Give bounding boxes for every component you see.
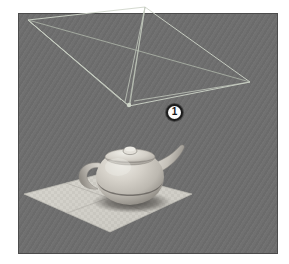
scene-render [0,0,271,251]
screenshot-root: 1 [0,0,289,264]
callout-badge-label: 1 [172,107,178,117]
gizmo-far-plane [28,7,250,106]
gizmo-apex-handle[interactable] [127,103,131,107]
callout-badge-1[interactable]: 1 [166,104,183,121]
teapot-knob-top [125,146,136,151]
teapot-specular-highlight [105,158,131,176]
gizmo-diagonals [28,7,250,106]
spotlight-wireframe[interactable] [28,7,250,107]
gizmo-cone-edges [28,7,250,105]
